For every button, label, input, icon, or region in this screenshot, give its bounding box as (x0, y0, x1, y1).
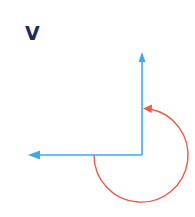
rotation-diagram (0, 0, 195, 217)
vertical-vector-arrow (139, 52, 146, 155)
rotation-arc-arrow (94, 105, 188, 203)
horizontal-vector-arrow (28, 151, 142, 160)
